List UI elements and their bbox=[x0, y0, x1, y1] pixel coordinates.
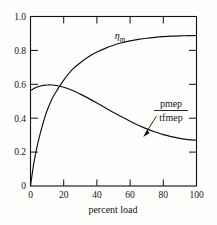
y-axis-ticks-right bbox=[189, 50, 196, 152]
eta-m-annotation: ηm bbox=[115, 30, 126, 44]
leader-arrowhead bbox=[143, 130, 149, 137]
x-axis-ticks-top bbox=[64, 17, 164, 24]
pmep-tfmep-annotation: pmep tfmep bbox=[143, 98, 188, 137]
y-tick-label-0.8: 0.8 bbox=[14, 46, 26, 56]
x-axis-ticks bbox=[64, 180, 164, 187]
x-tick-label-40: 40 bbox=[92, 190, 102, 200]
x-axis-title: percent load bbox=[88, 204, 137, 215]
y-tick-label-0.2: 0.2 bbox=[14, 147, 26, 157]
eta-symbol-label: ηm bbox=[115, 30, 126, 44]
y-tick-label-1.0: 1.0 bbox=[14, 12, 26, 22]
x-tick-label-100: 100 bbox=[189, 190, 204, 200]
x-tick-label-80: 80 bbox=[159, 190, 169, 200]
y-tick-label-0: 0 bbox=[21, 181, 26, 191]
x-tick-label-60: 60 bbox=[125, 190, 135, 200]
y-tick-label-0.6: 0.6 bbox=[14, 80, 26, 90]
y-axis-ticks bbox=[31, 50, 38, 152]
eta-subscript: m bbox=[120, 35, 126, 44]
x-tick-label-20: 20 bbox=[59, 190, 69, 200]
x-tick-label-0: 0 bbox=[28, 190, 33, 200]
pmep-denominator-label: tfmep bbox=[159, 112, 182, 123]
pmep-numerator-label: pmep bbox=[160, 98, 182, 109]
line-chart: 1.0 0.8 0.6 0.4 0.2 0 0 20 40 60 80 100 … bbox=[0, 0, 217, 225]
y-tick-label-0.4: 0.4 bbox=[14, 114, 26, 124]
chart-figure: 1.0 0.8 0.6 0.4 0.2 0 0 20 40 60 80 100 … bbox=[0, 0, 217, 225]
